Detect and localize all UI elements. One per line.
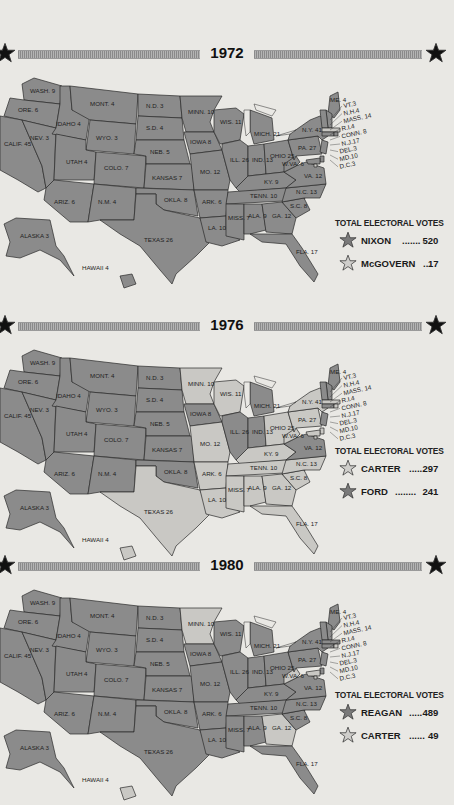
election-1972-section: 1972 WASH. 9ORE. 6CALIF. 45NEV. 3IDAHO 4… bbox=[0, 24, 454, 259]
svg-text:UTAH 4: UTAH 4 bbox=[66, 430, 88, 437]
electoral-vote-legend: TOTAL ELECTORAL VOTES NIXON ....... 520 … bbox=[335, 218, 454, 274]
svg-text:ORE. 6: ORE. 6 bbox=[18, 106, 39, 113]
state-hawaii bbox=[120, 786, 136, 800]
star-icon bbox=[0, 314, 16, 336]
svg-text:TENN. 10: TENN. 10 bbox=[250, 464, 278, 471]
svg-text:WYO. 3: WYO. 3 bbox=[96, 134, 118, 141]
svg-text:WIS. 11: WIS. 11 bbox=[220, 390, 242, 397]
svg-text:N.D. 3: N.D. 3 bbox=[146, 614, 164, 621]
svg-text:KANSAS 7: KANSAS 7 bbox=[152, 686, 183, 693]
state-ri bbox=[334, 404, 338, 408]
legend-row-candidate-2: FORD ........ 241 bbox=[335, 482, 454, 502]
svg-text:TENN. 10: TENN. 10 bbox=[250, 192, 278, 199]
svg-text:ALASKA 3: ALASKA 3 bbox=[20, 232, 49, 239]
svg-text:N.C. 13: N.C. 13 bbox=[296, 700, 318, 707]
state-miss bbox=[226, 476, 244, 512]
candidate-star-icon bbox=[339, 459, 357, 477]
candidate-star-icon bbox=[339, 726, 357, 744]
state-ri bbox=[334, 132, 338, 136]
candidate-star-icon bbox=[339, 231, 357, 249]
svg-text:VA. 12: VA. 12 bbox=[304, 172, 323, 179]
state-dc bbox=[314, 436, 317, 439]
svg-text:TEXAS 26: TEXAS 26 bbox=[144, 508, 173, 515]
svg-text:S.C. 8: S.C. 8 bbox=[290, 202, 308, 209]
candidate-votes: 520 bbox=[423, 235, 439, 246]
svg-text:MO. 12: MO. 12 bbox=[200, 440, 221, 447]
svg-text:FLA. 17: FLA. 17 bbox=[296, 248, 318, 255]
svg-text:VA. 12: VA. 12 bbox=[304, 684, 323, 691]
svg-text:ARK. 6: ARK. 6 bbox=[202, 710, 222, 717]
svg-text:KY. 9: KY. 9 bbox=[264, 690, 279, 697]
state-nj bbox=[320, 412, 328, 426]
svg-text:IDAHO 4: IDAHO 4 bbox=[56, 120, 81, 127]
svg-text:ARIZ. 6: ARIZ. 6 bbox=[54, 710, 76, 717]
banner-rule-right bbox=[254, 50, 422, 59]
year-label: 1972 bbox=[202, 44, 252, 61]
state-md bbox=[306, 670, 320, 676]
state-del bbox=[320, 428, 324, 434]
candidate-votes: 17 bbox=[428, 258, 439, 269]
state-wis bbox=[214, 380, 244, 416]
svg-text:HAWAII 4: HAWAII 4 bbox=[82, 776, 109, 783]
year-banner: 1976 bbox=[0, 316, 454, 336]
legend-title: TOTAL ELECTORAL VOTES bbox=[335, 446, 454, 456]
svg-text:UTAH 4: UTAH 4 bbox=[66, 158, 88, 165]
svg-text:N.C. 13: N.C. 13 bbox=[296, 460, 318, 467]
svg-text:MO. 12: MO. 12 bbox=[200, 168, 221, 175]
legend-row-candidate-2: McGOVERN ... 17 bbox=[335, 254, 454, 274]
electoral-vote-legend: TOTAL ELECTORAL VOTES REAGAN ..... 489 C… bbox=[335, 690, 454, 746]
svg-text:WIS. 11: WIS. 11 bbox=[220, 118, 242, 125]
svg-text:ILL. 26: ILL. 26 bbox=[230, 668, 249, 675]
svg-text:COLO. 7: COLO. 7 bbox=[104, 676, 129, 683]
banner-rule-left bbox=[18, 562, 200, 571]
leader-dots: ...... bbox=[409, 730, 425, 741]
svg-text:KY. 9: KY. 9 bbox=[264, 178, 279, 185]
star-icon bbox=[0, 554, 16, 576]
state-conn bbox=[322, 404, 334, 408]
candidate-votes: 297 bbox=[423, 463, 439, 474]
state-fla bbox=[250, 234, 318, 282]
svg-text:MICH. 21: MICH. 21 bbox=[254, 402, 281, 409]
us-electoral-map: WASH. 9ORE. 6CALIF. 45NEV. 3IDAHO 4MONT.… bbox=[0, 582, 340, 802]
election-1980-section: 1980 WASH. 9ORE. 6CALIF. 45NEV. 3IDAHO 4… bbox=[0, 536, 454, 771]
svg-text:ILL. 26: ILL. 26 bbox=[230, 156, 249, 163]
svg-text:W.VA. 6: W.VA. 6 bbox=[282, 160, 304, 167]
svg-text:MONT. 4: MONT. 4 bbox=[90, 612, 115, 619]
state-wis bbox=[214, 620, 244, 656]
svg-text:ARIZ. 6: ARIZ. 6 bbox=[54, 470, 76, 477]
state-mass bbox=[322, 128, 340, 132]
state-del bbox=[320, 668, 324, 674]
svg-text:ARIZ. 6: ARIZ. 6 bbox=[54, 198, 76, 205]
candidate-votes: 241 bbox=[423, 486, 439, 497]
svg-text:S.D. 4: S.D. 4 bbox=[146, 396, 164, 403]
state-conn bbox=[322, 644, 334, 648]
svg-text:PA. 27: PA. 27 bbox=[298, 144, 317, 151]
electoral-vote-legend: TOTAL ELECTORAL VOTES CARTER ...... 297 … bbox=[335, 446, 454, 502]
legend-title: TOTAL ELECTORAL VOTES bbox=[335, 218, 454, 228]
svg-text:OKLA. 8: OKLA. 8 bbox=[164, 196, 188, 203]
svg-text:ILL. 26: ILL. 26 bbox=[230, 428, 249, 435]
legend-title: TOTAL ELECTORAL VOTES bbox=[335, 690, 454, 700]
state-mass bbox=[322, 640, 340, 644]
svg-text:IOWA 8: IOWA 8 bbox=[190, 410, 212, 417]
candidate-star-icon bbox=[339, 254, 357, 272]
svg-text:UTAH 4: UTAH 4 bbox=[66, 670, 88, 677]
state-wis bbox=[214, 108, 244, 144]
svg-text:WYO. 3: WYO. 3 bbox=[96, 646, 118, 653]
election-1976-section: 1976 WASH. 9ORE. 6CALIF. 45NEV. 3IDAHO 4… bbox=[0, 296, 454, 531]
svg-text:IOWA 8: IOWA 8 bbox=[190, 138, 212, 145]
leader-dots: ........ bbox=[395, 486, 416, 497]
state-dc bbox=[314, 164, 317, 167]
svg-text:OKLA. 8: OKLA. 8 bbox=[164, 708, 188, 715]
svg-text:W.VA. 6: W.VA. 6 bbox=[282, 672, 304, 679]
star-icon bbox=[425, 554, 447, 576]
candidate-votes: 49 bbox=[428, 730, 439, 741]
svg-text:VA. 12: VA. 12 bbox=[304, 444, 323, 451]
svg-text:TEXAS 26: TEXAS 26 bbox=[144, 236, 173, 243]
year-banner: 1972 bbox=[0, 44, 454, 64]
svg-text:COLO. 7: COLO. 7 bbox=[104, 436, 129, 443]
svg-text:FLA. 17: FLA. 17 bbox=[296, 760, 318, 767]
svg-text:WASH. 9: WASH. 9 bbox=[30, 87, 56, 94]
us-electoral-map: WASH. 9ORE. 6CALIF. 45NEV. 3IDAHO 4MONT.… bbox=[0, 342, 340, 562]
svg-text:N.M. 4: N.M. 4 bbox=[98, 198, 117, 205]
